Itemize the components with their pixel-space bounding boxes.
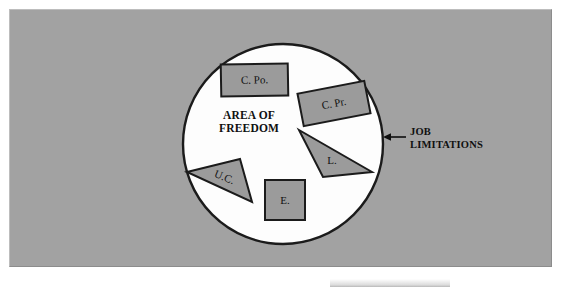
shape-e: E. xyxy=(265,180,305,220)
shape-c-po-label: C. Po. xyxy=(241,73,269,85)
figure-root: AREA OF FREEDOM C. Po. C. Pr. L. U.C. E. xyxy=(0,0,563,287)
callout-arrow-head xyxy=(383,133,391,141)
diagram-canvas: AREA OF FREEDOM C. Po. C. Pr. L. U.C. E. xyxy=(0,0,563,287)
area-of-freedom-label-line2: FREEDOM xyxy=(219,122,279,134)
area-of-freedom-label-line1: AREA OF xyxy=(223,109,275,121)
cropped-caption-sliver xyxy=(330,279,450,287)
shape-e-label: E. xyxy=(280,194,290,206)
job-limitations-label-line1: JOB xyxy=(410,126,431,137)
shape-c-po: C. Po. xyxy=(221,63,289,96)
job-limitations-callout: JOB LIMITATIONS xyxy=(383,126,483,150)
job-limitations-label-line2: LIMITATIONS xyxy=(410,139,483,150)
shape-l-label: L. xyxy=(327,154,337,166)
